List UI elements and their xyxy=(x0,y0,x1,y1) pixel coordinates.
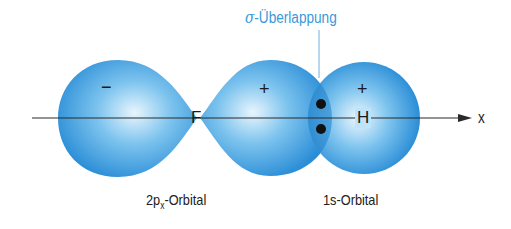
atom-label-hydrogen: H xyxy=(357,108,369,128)
s-orbital-plus-sign: + xyxy=(357,79,368,100)
p-lobe-minus-sign: − xyxy=(101,77,112,98)
orbital-diagram xyxy=(0,0,511,229)
atom-label-fluorine: F xyxy=(191,108,201,128)
sigma-overlap-label: σ-Überlappung xyxy=(245,8,337,27)
x-axis-label: x xyxy=(478,109,485,127)
electron-dot xyxy=(316,99,326,109)
p-orbital-caption: 2px-Orbital xyxy=(146,191,206,211)
x-axis-arrow-icon xyxy=(458,114,472,122)
s-orbital-caption: 1s-Orbital xyxy=(323,191,378,208)
p-lobe-plus-sign: + xyxy=(259,79,270,100)
electron-dot xyxy=(316,124,326,134)
